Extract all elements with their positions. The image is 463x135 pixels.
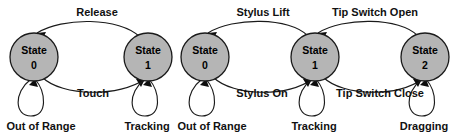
self-loop-out-of-range-right-label: Out of Range xyxy=(177,120,246,132)
transition-stylus-lift-path xyxy=(208,21,308,36)
transition-stylus-lift-label: Stylus Lift xyxy=(236,6,290,18)
transition-release-path xyxy=(37,21,140,37)
self-loop-tracking-left: Tracking xyxy=(124,79,169,132)
state-node-1-right-circle[interactable] xyxy=(291,33,339,81)
transition-tip-switch-close: Tip Switch Close xyxy=(323,77,424,99)
state-node-2-right[interactable]: State 2 xyxy=(401,33,449,81)
transition-touch-label: Touch xyxy=(77,87,109,99)
state-diagram-canvas: Release Touch Out of Range Tracking xyxy=(0,0,463,135)
state-node-2-right-number: 2 xyxy=(422,59,428,71)
state-node-0-left-number: 0 xyxy=(31,59,37,71)
transition-tip-switch-open-label: Tip Switch Open xyxy=(332,6,418,18)
touch-state-machine: Release Touch Out of Range Tracking xyxy=(6,6,172,132)
self-loop-dragging-label: Dragging xyxy=(400,120,448,132)
state-node-0-right-number: 0 xyxy=(202,59,208,71)
state-diagram-container: Release Touch Out of Range Tracking xyxy=(0,0,463,135)
transition-stylus-on: Stylus On xyxy=(213,77,312,99)
self-loop-out-of-range-left-label: Out of Range xyxy=(6,120,75,132)
state-node-0-right-word: State xyxy=(192,44,218,56)
state-node-2-right-word: State xyxy=(412,44,438,56)
stylus-state-machine: Stylus Lift Stylus On Tip Switch Open Ti… xyxy=(177,6,449,132)
transition-touch: Touch xyxy=(42,77,145,99)
state-node-0-left-circle[interactable] xyxy=(10,33,58,81)
state-node-0-right[interactable]: State 0 xyxy=(181,33,229,81)
state-node-1-right[interactable]: State 1 xyxy=(291,33,339,81)
state-node-1-left-number: 1 xyxy=(145,59,151,71)
state-node-0-left[interactable]: State 0 xyxy=(10,33,58,81)
state-node-1-left-word: State xyxy=(135,44,161,56)
state-node-1-left-circle[interactable] xyxy=(124,33,172,81)
transition-stylus-on-label: Stylus On xyxy=(236,87,288,99)
state-node-1-right-word: State xyxy=(302,44,328,56)
transition-tip-switch-open: Tip Switch Open xyxy=(318,6,418,40)
transition-release: Release xyxy=(37,6,140,40)
state-node-1-left[interactable]: State 1 xyxy=(124,33,172,81)
transition-release-label: Release xyxy=(76,6,118,18)
self-loop-tracking-right-label: Tracking xyxy=(291,120,336,132)
self-loop-out-of-range-left: Out of Range xyxy=(6,79,75,132)
self-loop-tracking-left-label: Tracking xyxy=(124,120,169,132)
transition-stylus-lift: Stylus Lift xyxy=(208,6,308,40)
state-node-0-left-word: State xyxy=(21,44,47,56)
state-node-0-right-circle[interactable] xyxy=(181,33,229,81)
state-node-2-right-circle[interactable] xyxy=(401,33,449,81)
transition-tip-switch-open-path xyxy=(318,21,418,36)
state-node-1-right-number: 1 xyxy=(312,59,318,71)
